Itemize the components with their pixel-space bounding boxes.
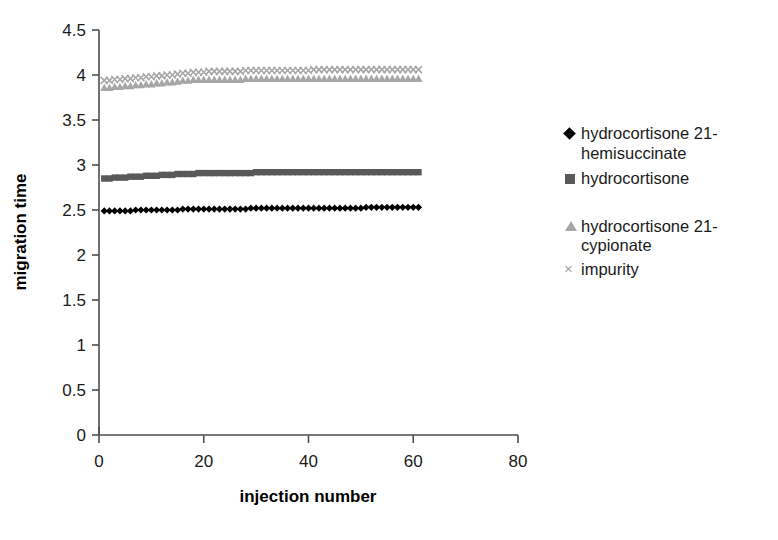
series-diamond [101,204,422,215]
legend-item-label: hydrocortisone [581,169,689,189]
cross-marker-icon: × [563,260,581,279]
y-axis-tick-labels: 00.511.522.533.544.5 [62,21,86,445]
chart-container: 00.511.522.533.544.5 020406080 injection… [0,0,778,540]
series-triangle [100,75,422,91]
legend-item[interactable]: hydrocortisone 21- cypionate [563,217,778,256]
y-axis-title: migration time [11,173,30,290]
y-tick-label: 3 [77,156,86,175]
y-tick-label: 4.5 [62,21,86,40]
data-point-cross [415,66,422,73]
legend-item-label: hydrocortisone 21- cypionate [581,217,718,256]
square-marker-glyph [565,174,575,184]
series-square [101,169,422,182]
cross-marker-glyph: × [564,263,576,275]
y-tick-label: 0 [77,426,86,445]
y-tick-label: 3.5 [62,111,86,130]
data-series-layer [100,66,422,214]
x-tick-label: 40 [299,452,318,471]
x-tick-label: 20 [194,452,213,471]
diamond-marker-icon [563,124,581,143]
data-point-diamond [357,205,364,212]
triangle-marker-icon [563,217,581,236]
legend-item[interactable]: hydrocortisone [563,169,778,189]
square-marker-icon [563,169,581,188]
data-point-diamond [174,206,181,213]
y-tick-label: 1 [77,336,86,355]
y-axis-ticks [92,30,99,435]
triangle-marker-glyph [565,221,577,231]
diamond-marker-glyph [563,127,576,140]
legend-item-label: impurity [581,260,639,280]
data-point-square [415,169,421,175]
legend-item-label: hydrocortisone 21- hemisuccinate [581,124,718,163]
y-tick-label: 2.5 [62,201,86,220]
x-tick-label: 0 [94,452,103,471]
y-tick-label: 4 [77,66,86,85]
y-tick-label: 1.5 [62,291,86,310]
x-tick-label: 80 [509,452,528,471]
legend: hydrocortisone 21- hemisuccinatehydrocor… [563,124,778,285]
x-axis-tick-labels: 020406080 [94,452,527,471]
legend-item[interactable]: ×impurity [563,260,778,280]
axis-lines [99,30,518,435]
data-point-diamond [127,207,134,214]
y-tick-label: 0.5 [62,381,86,400]
x-axis-title: injection number [240,487,377,506]
x-tick-label: 60 [404,452,423,471]
y-tick-label: 2 [77,246,86,265]
data-point-diamond [242,206,249,213]
data-point-triangle [414,75,422,82]
data-point-diamond [415,204,422,211]
legend-item[interactable]: hydrocortisone 21- hemisuccinate [563,124,778,163]
